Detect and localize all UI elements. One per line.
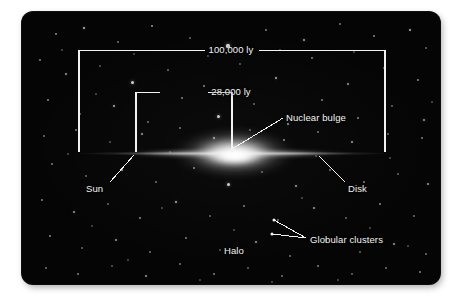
dimension-label-galaxy-diameter: 100,000 ly: [22, 45, 440, 55]
callout-label-nuclear-bulge: Nuclear bulge: [286, 113, 346, 123]
callout-label-globular-clusters: Globular clusters: [310, 235, 383, 245]
callout-label-disk: Disk: [348, 184, 367, 194]
callout-label-sun: Sun: [86, 184, 103, 194]
galaxy-diagram-panel: 100,000 ly 28,000 ly Nuclear bulge Sun D…: [22, 12, 440, 284]
dimension-label-sun-to-center: 28,000 ly: [22, 87, 440, 97]
leader-line: [232, 118, 283, 149]
leader-line: [110, 155, 134, 182]
leader-line: [319, 156, 345, 182]
globular-cluster-marker: [273, 219, 276, 222]
figure-canvas: 100,000 ly 28,000 ly Nuclear bulge Sun D…: [0, 0, 465, 298]
globular-cluster-marker: [271, 233, 274, 236]
callout-label-halo: Halo: [224, 246, 244, 256]
